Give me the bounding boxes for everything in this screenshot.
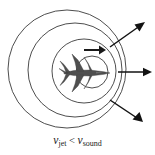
arrow-lower-right-head <box>133 112 144 122</box>
arrow-upper-right-head <box>135 22 146 32</box>
arrow-lower-right <box>110 100 143 122</box>
jet-velocity-arrow <box>84 46 106 55</box>
jet-canard-lower <box>84 76 92 89</box>
jet-tailplane-lower <box>60 74 70 85</box>
caption-right-subscript: sound <box>83 139 102 148</box>
arrow-lower-right-shaft <box>110 100 137 118</box>
arrow-right <box>118 68 152 76</box>
figure-caption: vjet<vsound <box>0 134 155 148</box>
jet-canard-upper <box>84 57 92 71</box>
figure-container: vjet<vsound <box>0 0 155 155</box>
arrow-upper-right-shaft <box>110 27 139 48</box>
arrow-right-head <box>143 68 152 76</box>
wavefront-diagram <box>0 0 155 155</box>
jet-wing-lower <box>72 75 84 92</box>
caption-relation: < <box>66 135 77 146</box>
jet-fuselage <box>64 70 110 76</box>
jet-wing-upper <box>72 54 84 71</box>
